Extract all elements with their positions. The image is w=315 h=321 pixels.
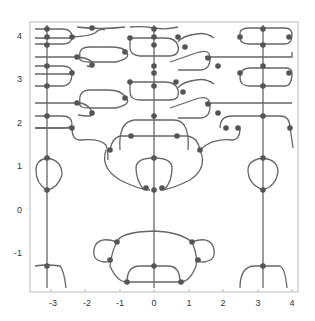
contour-curves xyxy=(35,25,293,288)
intersection-points xyxy=(44,25,293,285)
y-tick-label: -1 xyxy=(14,248,22,258)
x-tick-label: 0 xyxy=(151,298,156,308)
contour-plot: -3 -2 -1 0 1 2 3 4 -1 0 1 2 3 4 xyxy=(0,0,315,321)
y-tick-label: 3 xyxy=(17,74,22,84)
x-tick-label: 1 xyxy=(186,298,191,308)
y-tick-label: 4 xyxy=(17,31,22,41)
y-tick-label: 0 xyxy=(17,205,22,215)
x-tick-label: -2 xyxy=(83,298,91,308)
y-axis: -1 0 1 2 3 4 xyxy=(14,31,22,258)
x-tick-label: 2 xyxy=(220,298,225,308)
x-tick-label: -3 xyxy=(49,298,57,308)
plot-frame xyxy=(30,22,298,292)
x-tick-label: 3 xyxy=(255,298,260,308)
x-tick-label: -1 xyxy=(116,298,124,308)
y-tick-label: 2 xyxy=(17,118,22,128)
x-tick-label: 4 xyxy=(289,298,294,308)
y-tick-label: 1 xyxy=(17,161,22,171)
